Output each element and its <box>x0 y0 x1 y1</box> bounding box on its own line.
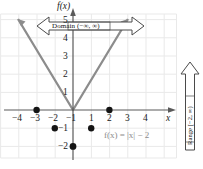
x-tick-label-neg2: −2 <box>48 114 58 124</box>
x-tick-label-2: 2 <box>107 114 112 124</box>
x-tick-label-1: 1 <box>89 114 94 124</box>
y-tick-label-3: 3 <box>63 52 68 62</box>
point-1-neg1 <box>88 125 94 131</box>
function-equation-label: f(x) = |x| − 2 <box>104 131 149 140</box>
graph-figure: 5 4 3 2 1 −1 −2 −4 −3 −2 −1 1 2 3 4 f(x)… <box>0 0 203 169</box>
x-axis-label: x <box>166 114 170 124</box>
y-tick-label-1: 1 <box>63 88 68 98</box>
plot-canvas <box>0 0 203 169</box>
x-tick-label-neg3: −3 <box>30 114 40 124</box>
y-tick-label-4: 4 <box>63 34 68 44</box>
x-tick-label-3: 3 <box>125 114 130 124</box>
y-axis-label: f(x) <box>57 2 70 12</box>
domain-callout-label: Domain (−∞, ∞) <box>52 23 100 30</box>
range-callout-label: Range [−2, ∞) <box>187 106 194 145</box>
y-tick-label-2: 2 <box>63 70 68 80</box>
y-tick-label-neg2: −2 <box>58 142 68 152</box>
y-tick-label-neg1: −1 <box>58 124 68 134</box>
x-tick-label-neg4: −4 <box>12 114 22 124</box>
x-tick-label-neg1: −1 <box>66 114 76 124</box>
point-vertex <box>70 143 77 150</box>
x-tick-label-4: 4 <box>143 114 148 124</box>
